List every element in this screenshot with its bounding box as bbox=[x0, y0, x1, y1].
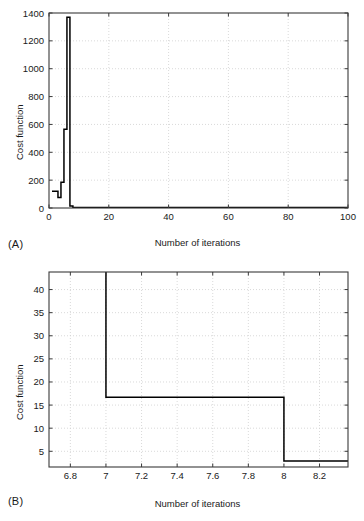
x-tick-label: 7.8 bbox=[242, 470, 255, 481]
chart-b-x-axis-label: Number of iterations bbox=[45, 498, 350, 509]
y-tick-label: 25 bbox=[33, 353, 44, 364]
x-tick-label: 6.8 bbox=[64, 470, 77, 481]
x-tick-label: 7.4 bbox=[171, 470, 184, 481]
y-tick-label: 400 bbox=[28, 147, 44, 158]
x-tick-label: 8 bbox=[281, 470, 286, 481]
y-tick-label: 1000 bbox=[23, 63, 44, 74]
y-tick-label: 35 bbox=[33, 307, 44, 318]
x-tick-label: 60 bbox=[223, 211, 234, 222]
x-tick-label: 7 bbox=[103, 470, 108, 481]
y-tick-label: 0 bbox=[39, 203, 44, 214]
x-tick-label: 8.2 bbox=[313, 470, 326, 481]
chart-panel-b: 6.877.27.47.67.888.2510152025303540 Cost… bbox=[0, 255, 364, 521]
y-tick-label: 30 bbox=[33, 330, 44, 341]
y-tick-label: 10 bbox=[33, 423, 44, 434]
x-tick-label: 40 bbox=[163, 211, 174, 222]
chart-panel-a: 0204060801000200400600800100012001400 Co… bbox=[0, 0, 364, 260]
chart-a-y-axis-label: Cost function bbox=[14, 105, 25, 160]
plot-box-frame bbox=[49, 272, 348, 467]
y-tick-label: 5 bbox=[39, 446, 44, 457]
y-tick-label: 15 bbox=[33, 400, 44, 411]
y-tick-label: 40 bbox=[33, 284, 44, 295]
chart-a-plot: 0204060801000200400600800100012001400 bbox=[0, 0, 364, 260]
chart-b-plot: 6.877.27.47.67.888.2510152025303540 bbox=[0, 255, 364, 521]
chart-a-x-axis-label: Number of iterations bbox=[45, 237, 350, 248]
y-tick-label: 1200 bbox=[23, 35, 44, 46]
y-tick-label: 200 bbox=[28, 175, 44, 186]
y-tick-label: 20 bbox=[33, 376, 44, 387]
x-tick-label: 7.2 bbox=[135, 470, 148, 481]
x-tick-label: 7.6 bbox=[206, 470, 219, 481]
series-line bbox=[106, 262, 348, 461]
x-tick-label: 100 bbox=[340, 211, 356, 222]
plot-box-frame bbox=[49, 13, 348, 208]
y-tick-label: 800 bbox=[28, 91, 44, 102]
panel-label-a: (A) bbox=[8, 238, 23, 250]
y-tick-label: 600 bbox=[28, 119, 44, 130]
x-tick-label: 80 bbox=[283, 211, 294, 222]
x-tick-label: 20 bbox=[104, 211, 115, 222]
series-line bbox=[52, 17, 348, 207]
panel-label-b: (B) bbox=[8, 495, 23, 507]
chart-b-y-axis-label: Cost function bbox=[14, 365, 25, 420]
y-tick-label: 1400 bbox=[23, 8, 44, 19]
x-tick-label: 0 bbox=[46, 211, 51, 222]
